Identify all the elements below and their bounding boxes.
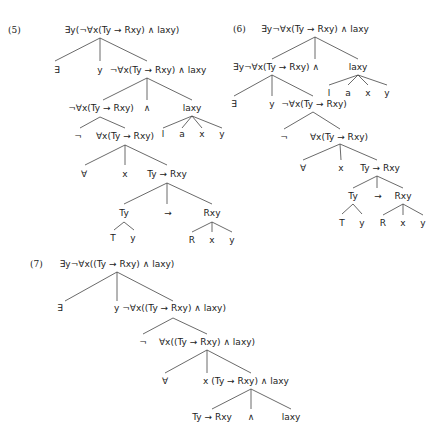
tree-5-node: T [110, 234, 116, 243]
tree-5-node: l [162, 130, 165, 139]
tree-5-node: ∀x(Ty → Rxy) [96, 132, 154, 141]
tree-6-node: laxy [349, 63, 368, 72]
tree-6-edge [340, 144, 377, 160]
tree-5-node: ¬ [74, 132, 82, 141]
tree-6-edge [377, 176, 403, 188]
tree-6-edge [340, 144, 341, 160]
tree-6-node: ¬ [280, 133, 288, 142]
tree-5-node: ¬∀x(Ty → Rxy) [68, 104, 134, 113]
tree-5-node: Ty → Rxy [147, 170, 187, 179]
tree-5-node: → [164, 209, 172, 218]
tree-5-edge [80, 117, 100, 128]
tree-6-edge [329, 75, 358, 85]
tree-6-node: y [359, 219, 364, 228]
tree-6-edge [284, 112, 313, 129]
tree-6-edge [383, 204, 403, 215]
tree-5-edge [100, 117, 125, 128]
tree-6-node: ∀ [300, 164, 306, 173]
tree-7-edge [143, 318, 173, 334]
syntax-tree-figure: (5) (6) (7) ∃y(¬∀x(Ty → Rxy) ∧ laxy)∃y¬∀… [0, 0, 448, 423]
tree-6-node: y [269, 100, 274, 109]
tree-5-edge [114, 222, 124, 230]
tree-5-edge [125, 145, 167, 165]
tree-5-node: Rxy [204, 209, 221, 218]
tree-6-node: x [338, 164, 343, 173]
tree-6-node: ∃y¬∀x(Ty → Rxy) ∧ laxy [261, 25, 369, 34]
tree-5-node: R [189, 236, 195, 245]
tree-5-node: ∧ [144, 104, 151, 113]
tree-6-edge [342, 204, 353, 214]
tree-5-node: a [179, 130, 185, 139]
tree-5-edge [103, 78, 147, 100]
tree-5-edge [55, 38, 100, 61]
tree-7-node: y ¬∀x((Ty → Rxy) ∧ laxy) [114, 304, 226, 313]
tree-5-node: x [122, 170, 127, 179]
tree-7-node: ¬ [139, 338, 147, 347]
tree-5-edge [163, 116, 192, 128]
tree-7-number: (7) [30, 260, 43, 269]
tree-6-node: ∀x(Ty → Rxy) [310, 133, 368, 142]
tree-7-edge [207, 350, 251, 373]
tree-5-edge [192, 222, 212, 232]
tree-5-node: x [199, 130, 204, 139]
tree-6-edge [358, 75, 387, 85]
tree-7-node: ∧ [248, 413, 255, 422]
tree-5-edge [100, 38, 147, 61]
tree-6-node: y [420, 219, 425, 228]
tree-5-node: y [219, 130, 224, 139]
tree-6-node: → [374, 192, 382, 201]
tree-6-node: ∃y¬∀x(Ty → Rxy) ∧ [233, 63, 319, 72]
tree-5-edge [147, 78, 192, 100]
tree-7-node: ∀ [162, 377, 168, 386]
tree-5-edge [124, 222, 134, 230]
tree-6-edge [272, 75, 313, 96]
tree-7-edge [65, 272, 117, 301]
tree-7-edge [117, 272, 173, 301]
tree-edges [0, 0, 448, 423]
tree-5-number: (5) [8, 26, 21, 35]
tree-6-node: a [345, 89, 351, 98]
tree-7-edge [251, 389, 291, 409]
tree-6-number: (6) [233, 25, 246, 34]
tree-6-edge [313, 112, 340, 129]
tree-6-node: R [380, 219, 386, 228]
tree-5-edge [167, 183, 212, 204]
tree-5-edge [124, 183, 167, 204]
tree-7-node: Ty → Rxy [192, 413, 232, 422]
tree-6-edge [272, 37, 315, 59]
tree-6-node: l [328, 89, 331, 98]
tree-6-node: ¬∀x(Ty → Rxy) [281, 100, 347, 109]
tree-7-edge [165, 350, 207, 373]
tree-6-edge [403, 204, 423, 215]
tree-5-edge [212, 222, 232, 232]
tree-6-node: Ty [348, 192, 357, 201]
tree-5-node: y [97, 66, 102, 75]
tree-5-node: laxy [183, 104, 202, 113]
tree-5-node: y [130, 234, 135, 243]
tree-6-edge [353, 204, 362, 214]
tree-6-node: x [365, 89, 370, 98]
tree-6-edge [353, 176, 377, 188]
tree-7-edge [212, 389, 251, 409]
tree-6-edge [315, 37, 358, 59]
tree-6-node: y [384, 89, 389, 98]
tree-5-node: ¬∀x(Ty → Rxy) ∧ laxy [110, 66, 207, 75]
tree-6-node: ∃ [231, 100, 237, 109]
tree-5-node: ∃y(¬∀x(Ty → Rxy) ∧ laxy) [65, 26, 180, 35]
tree-5-node: y [229, 236, 234, 245]
tree-7-node: ∃ [57, 304, 63, 313]
tree-6-node: T [339, 219, 345, 228]
tree-6-node: Rxy [395, 192, 412, 201]
tree-5-node: Ty [119, 209, 128, 218]
tree-5-node: x [209, 236, 214, 245]
tree-7-node: ∃y¬∀x((Ty → Rxy) ∧ laxy) [60, 260, 175, 269]
tree-5-node: ∀ [81, 170, 87, 179]
tree-5-node: ∃ [54, 66, 60, 75]
tree-6-edge [303, 144, 340, 160]
tree-6-node: x [400, 219, 405, 228]
tree-7-node: ∀x((Ty → Rxy) ∧ laxy) [159, 338, 255, 347]
tree-6-edge [234, 75, 272, 96]
tree-7-node: laxy [282, 413, 301, 422]
tree-7-node: x (Ty → Rxy) ∧ laxy [203, 377, 289, 386]
tree-7-edge [173, 318, 207, 334]
